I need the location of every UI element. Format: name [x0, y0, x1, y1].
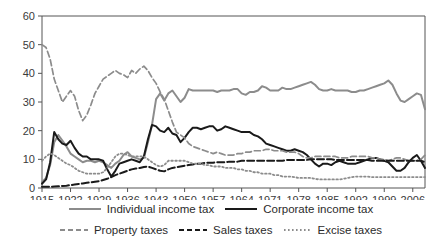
- legend-swatch-dashed-black: [178, 226, 208, 234]
- legend-swatch-solid-black: [224, 205, 258, 213]
- y-tick-label: 10: [23, 153, 35, 165]
- series-line-excise-taxes: [42, 154, 425, 180]
- legend-label: Corporate income tax: [263, 203, 373, 215]
- legend-label: Property taxes: [94, 224, 168, 236]
- data-series-layer: [42, 45, 425, 187]
- line-chart-svg: 0102030405060 19151922192919361943195019…: [0, 0, 441, 200]
- y-tick-label: 20: [23, 125, 35, 137]
- y-tick-label: 30: [23, 96, 35, 108]
- y-tick-label: 40: [23, 67, 35, 79]
- chart-figure: 0102030405060 19151922192919361943195019…: [0, 0, 441, 248]
- legend-label: Excise taxes: [318, 224, 383, 236]
- series-line-individual-income-tax: [42, 81, 425, 183]
- legend-item[interactable]: Excise taxes: [283, 224, 383, 236]
- legend-label: Individual income tax: [107, 203, 214, 215]
- legend-item[interactable]: Corporate income tax: [224, 203, 373, 215]
- legend-label: Sales taxes: [213, 224, 272, 236]
- y-axis-ticks: 0102030405060: [23, 10, 42, 194]
- legend-row-2: Property taxesSales taxesExcise taxes: [0, 219, 441, 240]
- chart-legend: Individual income taxCorporate income ta…: [0, 198, 441, 248]
- legend-row-1: Individual income taxCorporate income ta…: [0, 198, 441, 219]
- plot-area: 0102030405060 19151922192919361943195019…: [0, 0, 441, 200]
- y-tick-label: 0: [29, 182, 35, 194]
- y-tick-label: 60: [23, 10, 35, 22]
- series-line-property-taxes: [42, 45, 425, 161]
- legend-swatch-dashed-gray: [59, 226, 89, 234]
- y-tick-label: 50: [23, 39, 35, 51]
- legend-swatch-dotted-gray: [283, 226, 313, 234]
- legend-item[interactable]: Individual income tax: [68, 203, 214, 215]
- legend-item[interactable]: Property taxes: [59, 224, 168, 236]
- legend-swatch-solid-gray: [68, 205, 102, 213]
- legend-item[interactable]: Sales taxes: [178, 224, 272, 236]
